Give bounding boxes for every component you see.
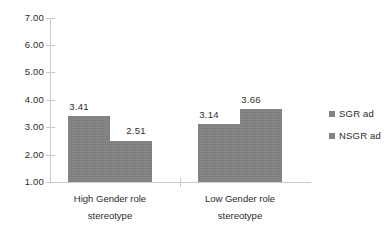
legend: SGR ad NSGR ad [329,105,381,149]
x-axis-category-label-low: Low Gender role stereotype [188,190,292,224]
legend-label-nsgr-ad: NSGR ad [339,131,381,141]
bar-low-nsgr [240,109,282,182]
bar-high-nsgr [110,141,152,182]
y-axis-tick-label-4: 4.00 [0,95,44,105]
bar-chart: 7.00 6.00 5.00 4.00 3.00 2.00 1.00 3.41 … [0,0,391,239]
bar-value-label-low-nsgr: 3.66 [227,95,275,105]
x-axis-category-label-high-line2: stereotype [58,207,162,224]
x-axis-category-label-high: High Gender role stereotype [58,190,162,224]
legend-item-nsgr-ad[interactable]: NSGR ad [329,127,381,144]
legend-item-sgr-ad[interactable]: SGR ad [329,105,381,122]
bar-value-label-low-sgr: 3.14 [185,110,233,120]
x-axis-category-label-low-line2: stereotype [188,207,292,224]
bar-value-label-high-sgr: 3.41 [55,102,103,112]
y-axis-tick-label-3: 3.00 [0,122,44,132]
legend-swatch-icon-nsgr-ad [329,133,335,139]
legend-label-sgr-ad: SGR ad [339,109,374,119]
y-axis-tick-label-6: 6.00 [0,40,44,50]
y-axis-tick-label-2: 2.00 [0,150,44,160]
y-axis-tick-label-5: 5.00 [0,67,44,77]
x-axis-category-label-low-line1: Low Gender role [188,190,292,207]
bar-high-sgr [68,116,110,182]
bar-value-label-high-nsgr: 2.51 [112,126,160,136]
x-axis-category-label-high-line1: High Gender role [58,190,162,207]
bar-low-sgr [198,124,240,182]
y-axis-tick-label-1: 1.00 [0,177,44,187]
legend-swatch-icon-sgr-ad [329,111,335,117]
y-axis-tick-label-7: 7.00 [0,13,44,23]
